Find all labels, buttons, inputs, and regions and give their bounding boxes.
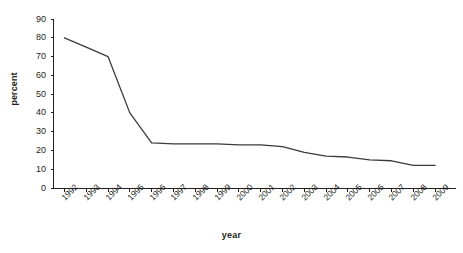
plot-area (0, 0, 463, 253)
data-series-line (64, 38, 435, 166)
x-axis-title: year (0, 230, 463, 240)
line-chart: percent 0102030405060708090 199219931994… (0, 0, 463, 253)
